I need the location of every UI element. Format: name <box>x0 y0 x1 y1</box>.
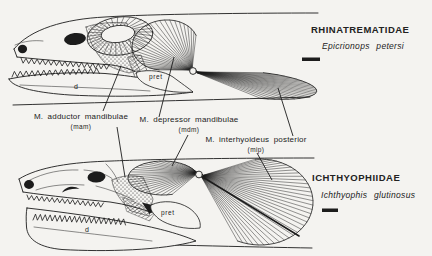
eye <box>87 171 106 183</box>
top-skull-drawing <box>9 13 318 105</box>
naris <box>18 45 27 53</box>
muscle-abbr: (mdm) <box>137 126 241 133</box>
species-label-ichthyophis: Ichthyophis glutinosus <box>321 190 415 200</box>
bone-label-d-top: d <box>74 83 79 90</box>
muscle-focal-point <box>190 68 197 75</box>
muscle-abbr: (mip) <box>202 146 310 153</box>
retroarticular-process <box>151 202 201 229</box>
naris <box>24 180 34 189</box>
scale-bar-bottom <box>322 209 338 213</box>
upper-teeth <box>27 195 104 207</box>
muscle-abbr: (mam) <box>30 123 132 130</box>
interhyoideus-fan <box>195 72 317 99</box>
muscle-label-mip: M. interhyoideus posterior (mip) <box>202 136 310 153</box>
scale-bar-top <box>302 58 320 62</box>
bone-label-pret-top: pret <box>149 73 163 80</box>
muscle-name: M. depressor mandibulae <box>137 116 241 125</box>
bone-label-d-bottom: d <box>85 226 90 233</box>
family-label-ichthyophiidae: ICHTHYOPHIIDAE <box>312 172 400 183</box>
anatomy-figure: RHINATREMATIDAE Epicrionops petersi ICHT… <box>0 0 432 256</box>
eye <box>63 32 86 47</box>
snout-front <box>14 49 17 57</box>
leader-line <box>172 135 188 166</box>
bottom-skull-drawing <box>19 158 314 251</box>
tentacle-aperture <box>62 187 80 193</box>
muscle-label-mdm: M. depressor mandibulae (mdm) <box>137 116 241 133</box>
family-label-rhinatrematidae: RHINATREMATIDAE <box>311 24 409 35</box>
interhyoideus-fan <box>201 159 313 245</box>
leader-line <box>117 127 125 177</box>
species-label-epicrionops: Epicrionops petersi <box>322 41 404 51</box>
snout-front <box>19 179 23 192</box>
muscle-label-mam: M. adductor mandibulae (mam) <box>30 113 132 130</box>
muscle-focal-point <box>196 171 203 178</box>
muscle-name: M. interhyoideus posterior <box>202 136 310 145</box>
leader-line <box>278 88 293 136</box>
bone-label-pret-bottom: pret <box>161 209 175 216</box>
dorsal-outline <box>14 13 318 49</box>
muscle-name: M. adductor mandibulae <box>30 113 132 122</box>
